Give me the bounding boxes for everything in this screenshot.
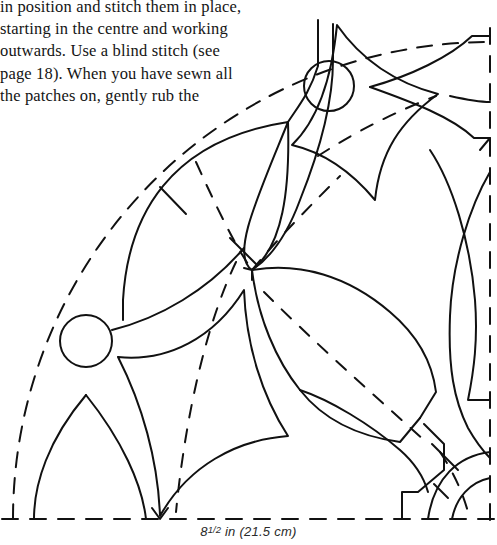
pointed-arch-bottom-left-left (34, 395, 86, 519)
quilt-pattern-diagram (0, 0, 497, 545)
registration-tick-1 (160, 187, 186, 214)
caption-fraction: 1/2 (208, 524, 221, 535)
leaf-patch-upper-left (123, 122, 288, 300)
leaf-patch-right-point-lower (370, 87, 490, 138)
pattern-page: in position and stitch them in place, st… (0, 0, 497, 545)
circle-lower-left-icon (60, 315, 112, 367)
pattern-svg-canvas (0, 0, 497, 545)
leaf-patch-right-point-upper (370, 36, 490, 87)
pointed-arch-bottom-left-right (86, 395, 146, 519)
top-bridge-right-curve (252, 24, 333, 270)
lower-right-hex-patch-edge (300, 390, 428, 492)
pattern-size-caption: 81/2 in (21.5 cm) (0, 524, 497, 539)
lower-right-hex-patch (402, 424, 444, 519)
leaf-patch-center-upper (252, 268, 436, 418)
caption-whole-number: 8 (200, 524, 208, 539)
caption-units: in (21.5 cm) (221, 524, 297, 539)
right-outer-sweep-upper (450, 96, 490, 102)
arrow-head-right (480, 138, 490, 150)
concave-diamond-lower-left (118, 290, 288, 516)
concave-diamond-upper-right (292, 25, 438, 200)
right-outer-sweep-mid (450, 172, 490, 458)
arrow-head-center (244, 268, 252, 280)
stitch-guide-center-leaf (264, 292, 424, 440)
